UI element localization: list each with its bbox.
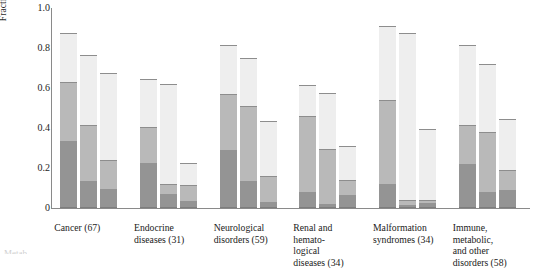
bar-segment — [419, 129, 436, 200]
bar-segment — [319, 149, 336, 204]
bar-segment — [339, 195, 356, 207]
bar[interactable] — [499, 120, 516, 208]
bar-segment — [60, 82, 77, 141]
plot-area: Cancer (67)Endocrine diseases (31)Neurol… — [52, 8, 530, 208]
y-tick-label: 1.0 — [24, 3, 50, 13]
bar-segment — [260, 202, 277, 207]
bar[interactable] — [299, 86, 316, 208]
bar-segment — [499, 119, 516, 170]
bar-segment — [260, 176, 277, 202]
bar-segment — [240, 106, 257, 181]
bar-segment — [100, 160, 117, 189]
bar-segment — [60, 141, 77, 207]
bar-segment — [160, 184, 177, 194]
y-tick-label: 0.2 — [24, 163, 50, 173]
bar-segment — [80, 181, 97, 207]
bar[interactable] — [240, 59, 257, 208]
bar-segment — [419, 200, 436, 203]
x-tick-label: Endocrine diseases (31) — [134, 222, 222, 245]
bar-segment — [459, 45, 476, 125]
x-axis-line — [51, 208, 530, 209]
bar-segment — [459, 125, 476, 164]
bar-segment — [319, 93, 336, 149]
bar-segment — [399, 200, 416, 205]
bar[interactable] — [60, 34, 77, 208]
bar-group — [379, 8, 436, 208]
bar[interactable] — [260, 122, 277, 208]
bar-segment — [379, 184, 396, 207]
bar-segment — [479, 192, 496, 207]
bar-segment — [299, 85, 316, 116]
x-tick-label: Immune, metabolic, and other disorders (… — [453, 222, 533, 268]
bar-segment — [60, 33, 77, 82]
bar-group — [140, 8, 197, 208]
bar-group — [459, 8, 516, 208]
bar-segment — [240, 58, 257, 106]
y-tick-label: 0.4 — [24, 123, 50, 133]
y-tick-label: 0 — [24, 203, 50, 213]
bar-segment — [180, 201, 197, 207]
bar-segment — [459, 164, 476, 207]
caption-cutoff-text: Metab — [4, 247, 27, 254]
y-tick-label: 0.6 — [24, 83, 50, 93]
x-tick-label: Malformation syndromes (34) — [373, 222, 461, 245]
bar-segment — [140, 79, 157, 127]
bar-segment — [379, 100, 396, 184]
bar-group — [220, 8, 277, 208]
bar-segment — [240, 181, 257, 207]
bar-segment — [140, 163, 157, 207]
bar-segment — [419, 203, 436, 207]
bar[interactable] — [339, 147, 356, 208]
bar-group — [299, 8, 356, 208]
bar-segment — [100, 73, 117, 160]
bar-segment — [220, 94, 237, 150]
y-tick-label: 0.8 — [24, 43, 50, 53]
bar-segment — [260, 121, 277, 176]
bar-segment — [399, 205, 416, 207]
bar-segment — [220, 150, 237, 207]
bar-group — [60, 8, 117, 208]
bar-segment — [319, 204, 336, 207]
bar-segment — [299, 192, 316, 207]
bar[interactable] — [140, 80, 157, 208]
bar-segment — [80, 125, 97, 181]
bar-segment — [339, 180, 356, 195]
bar-segment — [160, 194, 177, 207]
bar[interactable] — [479, 65, 496, 208]
bar-segment — [180, 185, 197, 201]
bar-segment — [100, 189, 117, 207]
bar-segment — [399, 33, 416, 200]
bar[interactable] — [220, 46, 237, 208]
bar-segment — [479, 64, 496, 132]
bar-segment — [180, 163, 197, 185]
bar[interactable] — [379, 27, 396, 208]
x-tick-label: Renal and hemato- logical diseases (34) — [293, 222, 381, 268]
bar-segment — [339, 146, 356, 180]
bar-segment — [379, 26, 396, 100]
bar[interactable] — [459, 46, 476, 208]
bar[interactable] — [100, 74, 117, 208]
bar-segment — [479, 132, 496, 192]
bar-segment — [160, 84, 177, 184]
bar[interactable] — [80, 56, 97, 208]
bar[interactable] — [160, 85, 177, 208]
bar[interactable] — [180, 164, 197, 208]
bar[interactable] — [319, 94, 336, 208]
y-axis-label: Fraction of human genes — [0, 0, 8, 38]
bar-segment — [299, 116, 316, 192]
bar-segment — [220, 45, 237, 94]
bar[interactable] — [399, 34, 416, 208]
x-tick-label: Cancer (67) — [54, 222, 142, 234]
bar-segment — [80, 55, 97, 125]
bar-segment — [499, 170, 516, 190]
bar[interactable] — [419, 130, 436, 208]
bar-segment — [499, 190, 516, 207]
bar-segment — [140, 127, 157, 163]
y-axis-ticks: 00.20.40.60.81.0 — [22, 0, 50, 260]
x-tick-label: Neurological disorders (59) — [214, 222, 302, 245]
